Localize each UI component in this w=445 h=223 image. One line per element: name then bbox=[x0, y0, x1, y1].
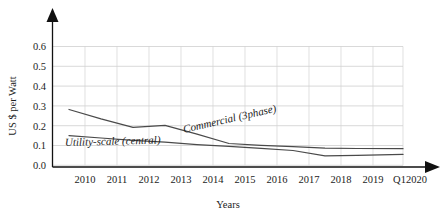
x-tick-label: 2012 bbox=[139, 174, 160, 185]
x-tick-label: Q12020 bbox=[393, 174, 427, 185]
y-axis-title: US $ per Watt bbox=[7, 76, 18, 135]
y-tick-label: 0.0 bbox=[33, 160, 46, 171]
y-tick-label: 0.5 bbox=[33, 61, 46, 72]
x-tick-label: 2013 bbox=[171, 174, 192, 185]
x-tick-label: 2017 bbox=[299, 174, 320, 185]
x-tick-label: 2016 bbox=[267, 174, 288, 185]
y-axis-tick-labels: 0.6 0.5 0.4 0.3 0.2 0.1 0.0 bbox=[33, 41, 47, 171]
series-label-commercial: Commercial (3phase) bbox=[182, 102, 278, 136]
series-label-utility-scale: Utility-scale (central) bbox=[65, 133, 161, 149]
y-tick-label: 0.3 bbox=[33, 101, 46, 112]
horizontal-gridlines bbox=[53, 47, 403, 166]
y-tick-label: 0.4 bbox=[33, 81, 47, 92]
y-tick-label: 0.6 bbox=[33, 41, 46, 52]
x-tick-label: 2015 bbox=[235, 174, 256, 185]
line-chart: 0.6 0.5 0.4 0.3 0.2 0.1 0.0 2010 2011 20… bbox=[0, 0, 445, 223]
x-tick-label: 2010 bbox=[75, 174, 96, 185]
x-tick-label: 2011 bbox=[107, 174, 128, 185]
x-tick-label: 2018 bbox=[331, 174, 352, 185]
chart-container: 0.6 0.5 0.4 0.3 0.2 0.1 0.0 2010 2011 20… bbox=[0, 0, 445, 223]
y-tick-label: 0.2 bbox=[33, 121, 46, 132]
x-tick-label: 2014 bbox=[203, 174, 225, 185]
x-axis-tick-labels: 2010 2011 2012 2013 2014 2015 2016 2017 … bbox=[75, 174, 427, 185]
y-axis-arrow-icon bbox=[47, 8, 59, 22]
x-axis-arrow-icon bbox=[425, 161, 440, 173]
y-tick-label: 0.1 bbox=[33, 140, 46, 151]
x-axis-title: Years bbox=[216, 199, 239, 210]
x-tick-label: 2019 bbox=[363, 174, 384, 185]
